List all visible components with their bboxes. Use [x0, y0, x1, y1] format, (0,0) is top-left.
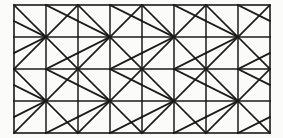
tiling-pattern-diagram	[0, 0, 283, 138]
figure-canvas	[0, 0, 283, 138]
